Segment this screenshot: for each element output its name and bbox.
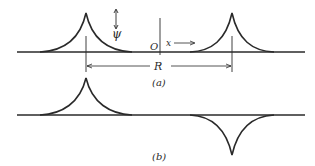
distance-label: R: [153, 60, 162, 73]
psi-label: ψ: [112, 27, 122, 41]
panel-b-negative-cusp: [190, 115, 274, 155]
panel-b-positive-cusp: [40, 78, 132, 115]
origin-label: O: [150, 41, 158, 52]
x-label: x: [166, 38, 171, 48]
figure-canvas: ψ O x R (a) (b): [0, 0, 315, 166]
caption-b: (b): [152, 151, 166, 162]
caption-a: (a): [152, 77, 166, 88]
